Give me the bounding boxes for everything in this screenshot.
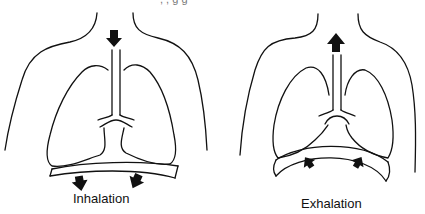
arrow-up-icon: [299, 153, 317, 171]
left-bronchi-inner: [100, 120, 132, 127]
right-body-outline-left: [240, 14, 318, 155]
arrow-up-icon: [327, 33, 345, 52]
arrow-up-icon: [349, 153, 367, 170]
right-lung-right: [345, 70, 393, 158]
right-bronchus-right: [341, 110, 355, 116]
exhalation-figure: [240, 14, 416, 181]
breathing-diagram: [0, 0, 425, 214]
left-diaphragm-bottom: [50, 171, 175, 178]
inhalation-label: Inhalation: [73, 191, 129, 206]
right-diaphragm-bottom: [276, 158, 386, 181]
right-lung-left: [273, 67, 329, 158]
arrow-down-icon: [106, 30, 122, 47]
left-diaphragm-top: [52, 162, 178, 169]
exhalation-label: Exhalation: [301, 196, 362, 211]
arrow-down-icon: [71, 175, 89, 193]
right-body-outline-right: [358, 14, 416, 172]
left-bronchus-right: [120, 115, 134, 120]
left-body-outline-right: [133, 13, 207, 150]
right-bronchi-inner: [325, 116, 349, 124]
inhalation-figure: [5, 13, 207, 178]
right-bronchus-left: [319, 110, 333, 116]
left-bronchus-left: [98, 115, 112, 120]
left-lung-right: [121, 65, 175, 164]
left-lung-left: [47, 66, 108, 167]
arrow-down-icon: [125, 171, 146, 191]
